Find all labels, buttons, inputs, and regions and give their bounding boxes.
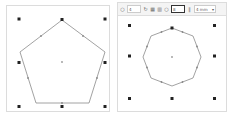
bounding-box-handles[interactable] [128,24,216,100]
octagon-shape-canvas[interactable] [118,3,228,113]
right-canvas-panel[interactable]: ○ 4 ↻ ▦ ▥ ○ 8 ‖ 4 mm ▾ [117,2,227,112]
center-point [171,56,173,58]
pentagon-shape-canvas[interactable] [7,6,111,113]
center-point [61,61,63,63]
left-canvas-panel[interactable] [6,5,110,112]
edge-midpoint-handles[interactable] [27,35,98,104]
